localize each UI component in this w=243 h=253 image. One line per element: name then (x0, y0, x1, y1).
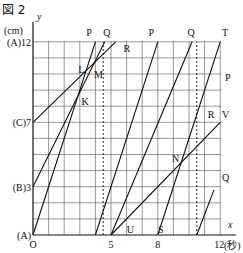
point-label: S (158, 224, 164, 235)
point-label: P (86, 27, 92, 38)
x-unit: (秒) (224, 239, 241, 252)
x-tick-label: 12 (214, 239, 224, 250)
y-axis-var: y (36, 11, 42, 22)
y-unit: (cm) (4, 25, 23, 37)
point-label: N (172, 153, 179, 164)
point-label: R (124, 43, 131, 54)
x-axis-var: x (227, 219, 233, 230)
point-label: L (78, 64, 84, 75)
y-tick-label: (B)3 (13, 182, 31, 194)
point-label: M (94, 69, 103, 80)
grid (33, 22, 236, 235)
y-tick-label: (A)12 (7, 37, 31, 49)
point-label: Q (222, 172, 230, 183)
point-label: Q (103, 27, 111, 38)
point-label: K (81, 96, 89, 107)
y-tick-label: (C)7 (13, 117, 31, 129)
figure-title: 図 2 (2, 3, 25, 17)
segment-10.5-Q (197, 190, 214, 235)
point-label: V (222, 109, 230, 120)
x-tick-label: O (29, 239, 36, 250)
point-label: T (222, 27, 228, 38)
tick-labels: (A)12(C)7(B)3(A)O5812 (7, 37, 224, 250)
point-label: U (127, 224, 135, 235)
point-label: Q (188, 27, 196, 38)
point-label: P (149, 27, 155, 38)
diagram-figure: 図 2 y (cm) x (秒) (A)12(C)7(B)3(A)O5812 P… (0, 0, 243, 253)
x-tick-label: 5 (109, 239, 114, 250)
point-label: P (225, 72, 231, 83)
point-label: R (208, 109, 215, 120)
x-tick-label: 8 (155, 239, 160, 250)
